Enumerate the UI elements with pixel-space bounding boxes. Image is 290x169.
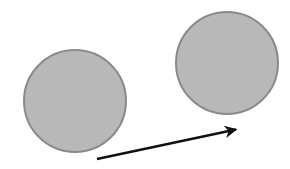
arrow-icon <box>97 130 236 160</box>
right-circle <box>176 12 278 114</box>
left-circle <box>24 50 126 152</box>
diagram-svg <box>0 0 290 169</box>
diagram-canvas <box>0 0 290 169</box>
